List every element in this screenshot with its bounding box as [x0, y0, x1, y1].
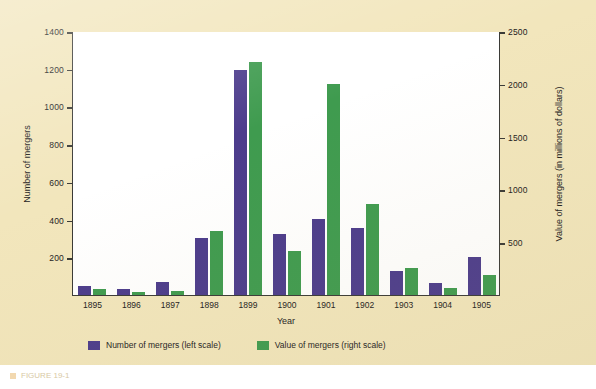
left-axis-tick-label-1400: 1400 — [44, 28, 64, 37]
left-axis-tick — [67, 32, 73, 34]
bar-group — [423, 32, 462, 295]
chart-legend: Number of mergers (left scale) Value of … — [88, 340, 386, 350]
bar-group — [306, 32, 345, 295]
bar-number-1902 — [351, 228, 364, 295]
left-axis-tick — [67, 183, 73, 185]
bar-number-1895 — [78, 286, 91, 295]
bar-value-1896 — [132, 292, 145, 295]
left-axis-tick-label-400: 400 — [49, 216, 64, 225]
legend-item-value-of-mergers: Value of mergers (right scale) — [257, 340, 386, 350]
right-axis-tick-label-2000: 2000 — [508, 81, 528, 90]
right-axis-tick-label-500: 500 — [508, 239, 523, 248]
right-axis-tick-label-1000: 1000 — [508, 186, 528, 195]
bar-series-container — [73, 32, 499, 295]
bar-group — [268, 32, 307, 295]
left-axis-tick — [67, 70, 73, 72]
x-tick-label-1904: 1904 — [433, 301, 452, 310]
left-axis-tick — [67, 145, 73, 147]
bar-value-1900 — [288, 251, 301, 295]
legend-label-number-of-mergers: Number of mergers (left scale) — [106, 340, 221, 350]
left-axis-tick-label-600: 600 — [49, 179, 64, 188]
bar-group — [73, 32, 112, 295]
right-axis-tick — [499, 243, 505, 245]
y-axis-right-title: Value of mergers (in millions of dollars… — [554, 87, 564, 242]
x-tick-label-1895: 1895 — [83, 301, 102, 310]
x-tick-label-1897: 1897 — [161, 301, 180, 310]
right-axis-tick — [499, 85, 505, 87]
left-axis-tick-label-800: 800 — [49, 141, 64, 150]
left-axis-tick — [67, 107, 73, 109]
x-tick-label-1900: 1900 — [278, 301, 297, 310]
bar-value-1902 — [366, 204, 379, 295]
bar-number-1896 — [117, 289, 130, 295]
bar-group — [462, 32, 501, 295]
left-axis-tick — [67, 258, 73, 260]
bar-number-1900 — [273, 234, 286, 295]
x-tick-label-1898: 1898 — [200, 301, 219, 310]
bar-value-1898 — [210, 231, 223, 295]
bar-group — [384, 32, 423, 295]
figure-caption-strip: FIGURE 19-1 — [0, 365, 596, 389]
right-axis-tick — [499, 190, 505, 192]
bar-value-1903 — [405, 268, 418, 295]
caption-marker-icon — [10, 373, 16, 379]
bar-number-1904 — [429, 283, 442, 295]
figure-caption: FIGURE 19-1 — [10, 371, 69, 380]
bar-group — [229, 32, 268, 295]
bar-group — [345, 32, 384, 295]
bar-group — [112, 32, 151, 295]
legend-swatch-icon-purple — [88, 341, 100, 350]
right-axis-tick-label-1500: 1500 — [508, 133, 528, 142]
x-tick-label-1902: 1902 — [355, 301, 374, 310]
right-axis-tick — [499, 32, 505, 34]
x-tick-label-1899: 1899 — [239, 301, 258, 310]
right-axis-tick-label-2500: 2500 — [508, 28, 528, 37]
bar-value-1905 — [483, 275, 496, 295]
bar-group — [190, 32, 229, 295]
bar-value-1904 — [444, 288, 457, 295]
left-axis-tick — [67, 221, 73, 223]
bar-number-1905 — [468, 257, 481, 295]
left-axis-tick-label-1200: 1200 — [44, 65, 64, 74]
legend-item-number-of-mergers: Number of mergers (left scale) — [88, 340, 221, 350]
figure-panel: 200400600800100012001400 500100015002000… — [0, 0, 596, 365]
x-tick-label-1896: 1896 — [122, 301, 141, 310]
bar-number-1901 — [312, 219, 325, 295]
bar-value-1899 — [249, 62, 262, 295]
bar-number-1898 — [195, 238, 208, 295]
x-tick-label-1905: 1905 — [472, 301, 491, 310]
left-axis-tick-label-200: 200 — [49, 254, 64, 263]
bar-value-1895 — [93, 289, 106, 295]
bar-number-1903 — [390, 271, 403, 295]
y-axis-left-title: Number of mergers — [22, 125, 32, 203]
x-tick-label-1901: 1901 — [316, 301, 335, 310]
legend-label-value-of-mergers: Value of mergers (right scale) — [275, 340, 386, 350]
left-axis-tick-label-1000: 1000 — [44, 103, 64, 112]
bar-number-1897 — [156, 282, 169, 295]
bar-value-1897 — [171, 291, 184, 295]
bar-group — [151, 32, 190, 295]
chart-plot-area: 200400600800100012001400 500100015002000… — [72, 32, 500, 296]
legend-swatch-icon-green — [257, 341, 269, 350]
bar-value-1901 — [327, 84, 340, 295]
caption-text: FIGURE 19-1 — [21, 371, 69, 380]
x-tick-label-1903: 1903 — [394, 301, 413, 310]
bar-number-1899 — [234, 70, 247, 295]
right-axis-tick — [499, 138, 505, 140]
x-axis-title: Year — [277, 316, 295, 326]
